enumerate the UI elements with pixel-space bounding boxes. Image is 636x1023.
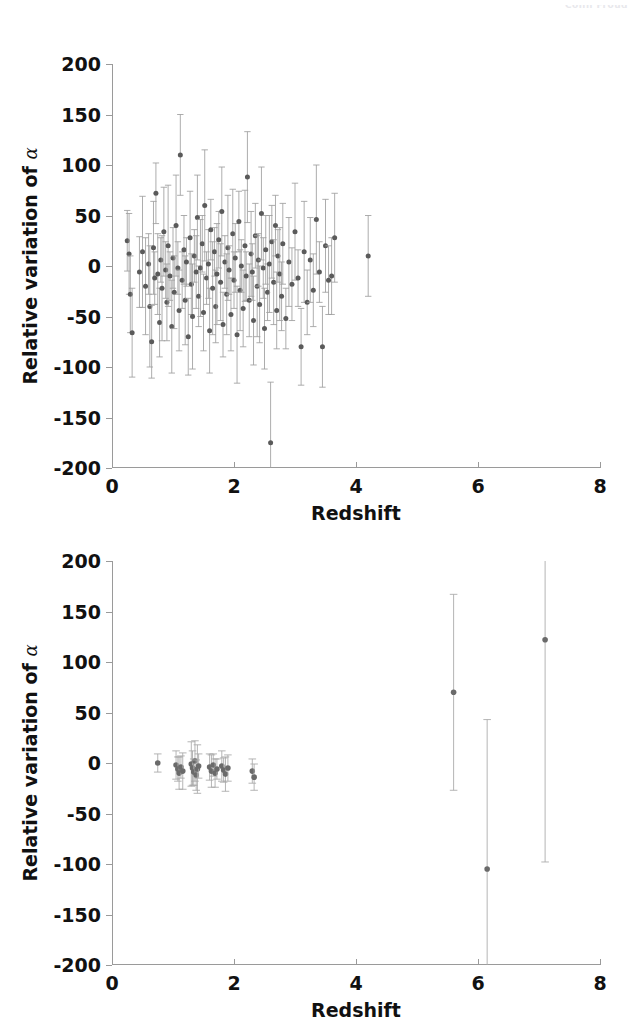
y-tick-label-bottom: -100 [53,853,101,875]
x-tick-label-bottom: 2 [227,972,240,994]
x-tick-label-bottom: 4 [349,972,362,994]
x-tick-label-top: 8 [593,475,606,497]
x-tick-top [600,462,601,468]
y-tick-label-top: 50 [75,205,101,227]
y-tick-label-top: -100 [53,356,101,378]
y-tick-label-top: -150 [53,407,101,429]
scatter-data-top [112,64,600,468]
x-tick-bottom [600,959,601,965]
y-tick-label-bottom: 0 [88,752,101,774]
y-tick-label-top: -50 [67,306,101,328]
y-tick-label-top: -200 [53,457,101,479]
y-axis-title-top: Relative variation of α [19,147,41,384]
y-axis-title-bottom: Relative variation of α [19,644,41,881]
x-axis-title-bottom: Redshift [311,999,401,1021]
plot-area-bottom: 200150100500-50-100-150-200 02468 Redshi… [112,561,600,965]
x-tick-label-top: 0 [105,475,118,497]
figure-top-panel: 200150100500-50-100-150-200 02468 Redshi… [0,24,636,524]
y-tick-label-bottom: 150 [61,601,101,623]
y-tick-label-top: 200 [61,53,101,75]
errorbar-scatter-svg-top [112,64,600,468]
scatter-data-bottom [112,561,600,965]
errorbar-scatter-svg-bottom [112,561,600,965]
y-tick-label-top: 0 [88,255,101,277]
y-tick-label-bottom: 100 [61,651,101,673]
x-tick-label-top: 2 [227,475,240,497]
y-tick-label-bottom: -150 [53,904,101,926]
x-tick-label-bottom: 0 [105,972,118,994]
x-tick-label-top: 4 [349,475,362,497]
y-tick-bottom [106,965,112,966]
plot-area-top: 200150100500-50-100-150-200 02468 Redshi… [112,64,600,468]
page-header-fragment: Colin Froud [565,0,628,10]
y-tick-label-bottom: -50 [67,803,101,825]
y-tick-label-bottom: 50 [75,702,101,724]
y-tick-top [106,468,112,469]
figure-bottom-panel: 200150100500-50-100-150-200 02468 Redshi… [0,521,636,1021]
x-tick-label-bottom: 8 [593,972,606,994]
y-tick-label-top: 150 [61,104,101,126]
x-tick-label-top: 6 [471,475,484,497]
x-tick-label-bottom: 6 [471,972,484,994]
y-tick-label-bottom: 200 [61,550,101,572]
y-tick-label-top: 100 [61,154,101,176]
y-tick-label-bottom: -200 [53,954,101,976]
